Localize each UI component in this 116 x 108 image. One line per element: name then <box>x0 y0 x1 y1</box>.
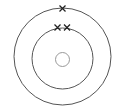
atom-diagram-svg <box>0 0 116 108</box>
inner-electron-icon-right <box>64 25 70 31</box>
atom-diagram: Nucleus with two electron shells: 2 elec… <box>0 0 116 108</box>
nucleus <box>56 53 70 67</box>
outer-shell <box>14 8 111 105</box>
inner-shell <box>32 28 93 89</box>
inner-electron-icon-left <box>55 25 61 31</box>
